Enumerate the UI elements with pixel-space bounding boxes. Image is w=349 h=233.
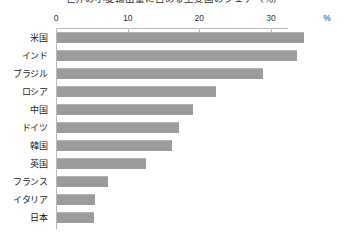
- bar: [57, 122, 179, 133]
- bar: [57, 104, 193, 115]
- axis-tick-label: 0: [54, 13, 59, 23]
- axis-tick-label: 10: [123, 13, 132, 23]
- bar-row: インド: [0, 47, 349, 65]
- category-label: ロシア: [22, 87, 48, 98]
- bar-row: 中国: [0, 101, 349, 119]
- category-label: フランス: [13, 177, 48, 188]
- bar-chart: 世界の小麦輸出量に占める主要国のシェア（％） 0102030 % 米国インドブラ…: [0, 0, 349, 233]
- category-label: 韓国: [30, 141, 48, 152]
- category-label: イタリア: [13, 195, 48, 206]
- category-label: 日本: [30, 213, 48, 224]
- bar: [57, 50, 297, 61]
- plot-area: 0102030 % 米国インドブラジルロシア中国ドイツ韓国英国フランスイタリア日…: [0, 12, 349, 233]
- bar: [57, 140, 172, 151]
- bar-row: 米国: [0, 29, 349, 47]
- category-label: インド: [22, 51, 48, 62]
- category-label: 米国: [30, 33, 48, 44]
- bar: [57, 68, 263, 79]
- axis-tick-label: 30: [266, 13, 275, 23]
- bar-series: 米国インドブラジルロシア中国ドイツ韓国英国フランスイタリア日本: [0, 29, 349, 229]
- bar: [57, 32, 304, 43]
- bar: [57, 86, 216, 97]
- bar-row: ロシア: [0, 83, 349, 101]
- category-label: 英国: [30, 159, 48, 170]
- chart-title: 世界の小麦輸出量に占める主要国のシェア（％）: [0, 0, 349, 4]
- bar-row: 日本: [0, 209, 349, 227]
- bar: [57, 212, 94, 223]
- category-label: 中国: [30, 105, 48, 116]
- bar: [57, 158, 146, 169]
- bar-row: ブラジル: [0, 65, 349, 83]
- bar-row: 英国: [0, 155, 349, 173]
- category-label: ブラジル: [13, 69, 48, 80]
- bar-row: フランス: [0, 173, 349, 191]
- axis-unit-label: %: [323, 13, 331, 23]
- bar-row: イタリア: [0, 191, 349, 209]
- category-label: ドイツ: [22, 123, 48, 134]
- bar: [57, 176, 108, 187]
- bar-row: 韓国: [0, 137, 349, 155]
- bar-row: ドイツ: [0, 119, 349, 137]
- axis-tick-label: 20: [195, 13, 204, 23]
- bar: [57, 194, 95, 205]
